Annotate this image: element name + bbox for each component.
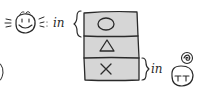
scribble-icon: [184, 55, 190, 60]
dot: [46, 25, 47, 26]
ray-right-3: [40, 26, 44, 27]
top-brace-icon: [74, 11, 81, 37]
sad-face-in-label: in: [151, 62, 163, 76]
ray-left-3: [6, 26, 11, 27]
ray-right-2: [40, 22, 44, 23]
sad-face: [172, 53, 193, 87]
ray-right-1: [39, 17, 44, 19]
sketch-diagram: in in: [0, 0, 201, 92]
partial-circle-fragment: [1, 64, 4, 80]
stack-cell-bottom: [84, 58, 139, 80]
stack-divider-2: [84, 58, 139, 59]
ray-left-1: [6, 19, 11, 20]
happy-face: [5, 12, 48, 34]
sad-face-eye-left: [175, 76, 181, 81]
bottom-brace-icon: [142, 58, 149, 80]
happy-face-in-label: in: [53, 16, 65, 30]
stack-cell-top: [84, 13, 138, 36]
happy-face-head: [16, 14, 35, 33]
happy-face-smile: [19, 25, 32, 28]
sad-face-eye-right: [183, 76, 189, 81]
stack-divider-1: [84, 36, 138, 37]
dot: [46, 21, 47, 22]
symbol-stack: [84, 12, 139, 81]
